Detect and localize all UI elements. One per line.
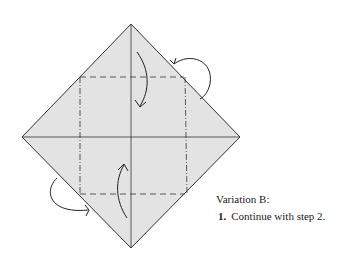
- step-text: Continue with step 2.: [231, 210, 325, 222]
- step-number: 1.: [218, 210, 226, 222]
- step-instruction: 1.Continue with step 2.: [218, 210, 325, 222]
- variation-caption: Variation B:: [216, 193, 269, 205]
